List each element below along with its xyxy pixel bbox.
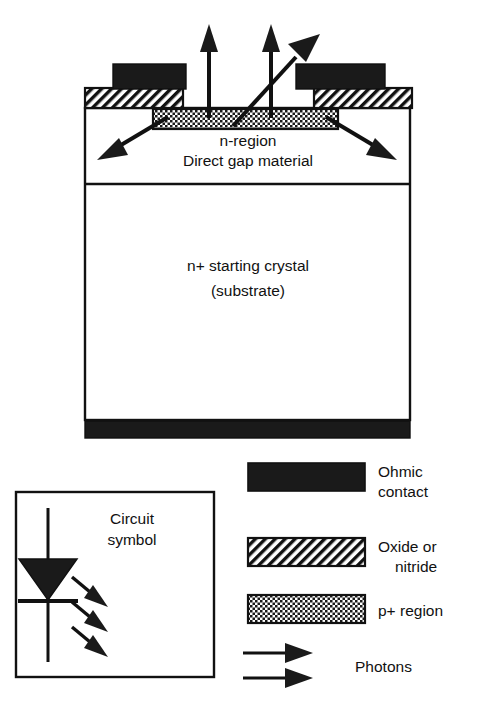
legend-label-oxide-line2: nitride — [395, 558, 437, 575]
legend-label-photons: Photons — [355, 658, 412, 675]
legend-label-oxide-line1: Oxide or — [378, 538, 437, 555]
backside-ohmic-contact — [85, 421, 410, 438]
led-cross-section-figure: n-region Direct gap material n+ starting… — [0, 0, 480, 720]
label-substrate: (substrate) — [211, 282, 285, 299]
label-direct-gap-material: Direct gap material — [183, 152, 313, 169]
circuit-symbol-panel: Circuit symbol — [16, 492, 214, 677]
legend-swatch-p-plus-region — [248, 595, 365, 623]
circuit-symbol-label-line2: symbol — [107, 531, 156, 548]
circuit-symbol-label-line1: Circuit — [110, 510, 155, 527]
oxide-layer-left — [85, 88, 183, 108]
top-ohmic-contact-left — [113, 64, 186, 89]
label-starting-crystal: n+ starting crystal — [187, 257, 309, 274]
legend-label-ohmic-line2: contact — [378, 483, 429, 500]
legend-swatch-ohmic-contact — [248, 463, 365, 491]
legend-label-ohmic-line1: Ohmic — [378, 463, 423, 480]
label-n-region: n-region — [220, 132, 277, 149]
legend-swatch-oxide-nitride — [248, 538, 365, 566]
legend-label-p-plus-region: p+ region — [378, 602, 443, 619]
top-ohmic-contact-right — [296, 64, 385, 89]
oxide-layer-right — [314, 88, 412, 108]
